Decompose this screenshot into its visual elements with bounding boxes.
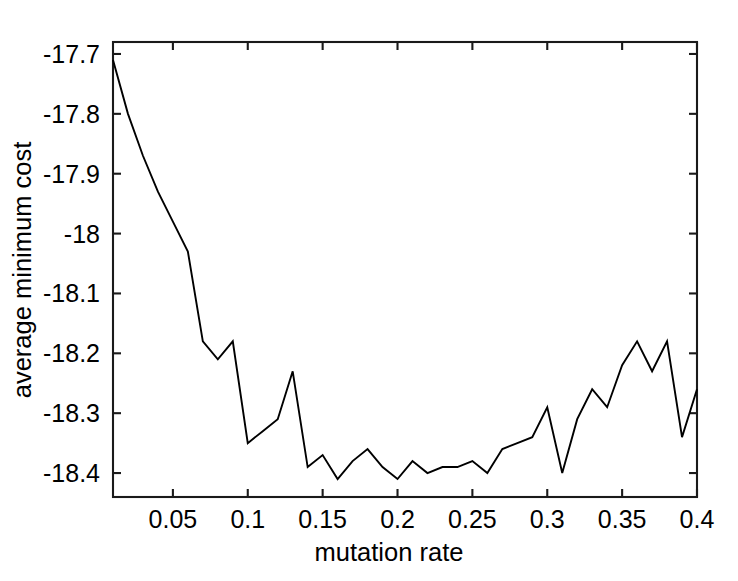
x-tick-label: 0.3 — [530, 505, 565, 533]
x-tick-label: 0.1 — [230, 505, 265, 533]
y-tick-label: -17.9 — [43, 160, 100, 188]
y-tick-label: -17.8 — [43, 100, 100, 128]
x-tick-label: 0.05 — [149, 505, 198, 533]
y-tick-label: -18.3 — [43, 399, 100, 427]
y-tick-label: -18 — [64, 220, 100, 248]
chart-background — [0, 0, 738, 581]
y-axis-title: average minimum cost — [8, 142, 36, 399]
y-tick-label: -18.4 — [43, 459, 100, 487]
y-tick-label: -18.1 — [43, 279, 100, 307]
x-tick-label: 0.25 — [448, 505, 497, 533]
y-tick-label: -17.7 — [43, 40, 100, 68]
line-chart: 0.050.10.150.20.250.30.350.4 -17.7-17.8-… — [0, 0, 738, 581]
y-tick-label: -18.2 — [43, 339, 100, 367]
figure-container: 0.050.10.150.20.250.30.350.4 -17.7-17.8-… — [0, 0, 738, 581]
x-tick-label: 0.35 — [598, 505, 647, 533]
x-tick-label: 0.4 — [680, 505, 715, 533]
x-tick-label: 0.2 — [380, 505, 415, 533]
x-tick-label: 0.15 — [298, 505, 347, 533]
x-axis-title: mutation rate — [315, 538, 464, 566]
